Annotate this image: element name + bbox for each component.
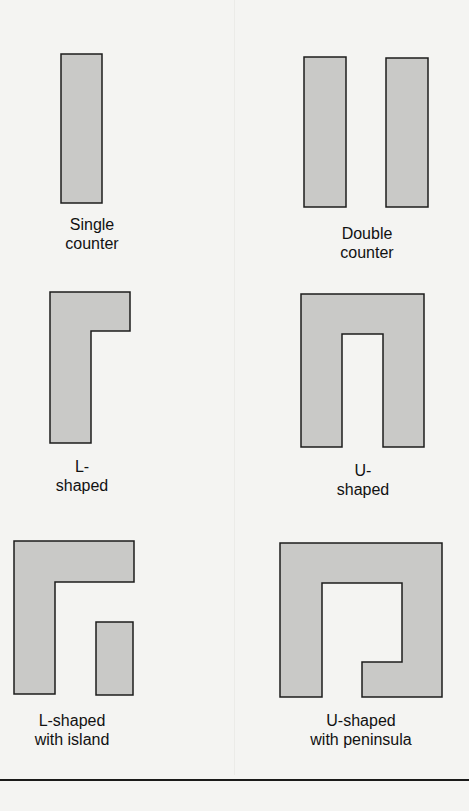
double-counter-left-shape bbox=[304, 57, 346, 207]
single-counter-shape bbox=[61, 54, 102, 203]
double-counter-right-shape bbox=[386, 58, 428, 207]
u-shaped-shape bbox=[301, 294, 424, 447]
single-counter-label: Single counter bbox=[42, 215, 142, 253]
l-shaped-label: L- shaped bbox=[32, 457, 132, 495]
u-shaped-with-peninsula-label: U-shaped with peninsula bbox=[291, 711, 431, 749]
bottom-rule bbox=[0, 779, 469, 781]
u-shaped-peninsula-shape bbox=[280, 543, 442, 697]
u-shaped-label: U- shaped bbox=[313, 461, 413, 499]
double-counter-label: Double counter bbox=[317, 224, 417, 262]
island-shape bbox=[96, 622, 133, 695]
kitchen-layouts-diagram bbox=[0, 0, 469, 811]
l-shaped-with-island-label: L-shaped with island bbox=[12, 711, 132, 749]
l-shaped-shape bbox=[50, 292, 130, 443]
